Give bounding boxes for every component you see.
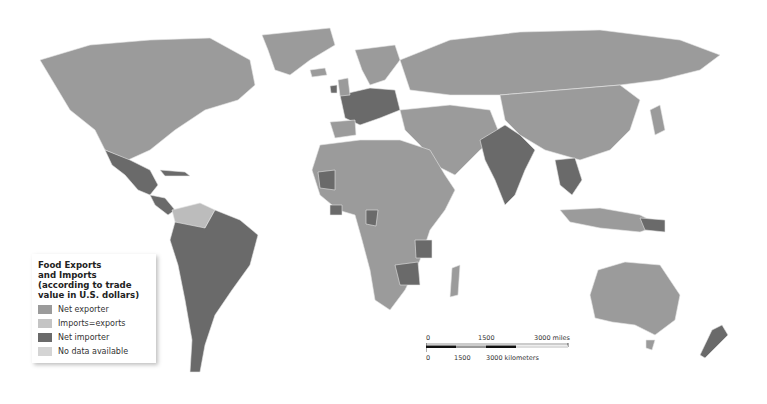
scale-bar: 0 1500 3000 miles 0 1500 3000 kilometers — [424, 334, 574, 374]
legend-label: No data available — [58, 347, 128, 356]
legend-title-line: (according to trade — [38, 280, 150, 290]
region-iceland — [310, 68, 327, 77]
legend-item-net-importer: Net importer — [38, 331, 150, 343]
legend-title-line: Food Exports — [38, 260, 150, 270]
region-japan — [650, 105, 665, 135]
region-uk — [338, 78, 350, 96]
swatch-net-importer — [38, 333, 52, 342]
swatch-net-exporter — [38, 305, 52, 314]
region-southeast-asia — [555, 158, 582, 195]
legend-label: Net exporter — [58, 305, 109, 314]
legend-item-imports-equal-exports: Imports=exports — [38, 317, 150, 329]
scale-miles-1500: 1500 — [478, 334, 495, 342]
scale-km-1500: 1500 — [454, 354, 471, 362]
region-ireland — [330, 85, 337, 93]
region-tanzania — [415, 240, 432, 258]
region-iberia — [330, 120, 356, 138]
region-australia — [590, 262, 680, 335]
legend-title-line: value in U.S. dollars) — [38, 290, 150, 300]
legend-title-line: and Imports — [38, 270, 150, 280]
region-tasmania — [646, 340, 655, 350]
legend-item-net-exporter: Net exporter — [38, 303, 150, 315]
region-west-africa — [330, 205, 342, 215]
legend-item-no-data: No data available — [38, 345, 150, 357]
region-new-zealand — [700, 325, 728, 358]
region-russia — [400, 30, 720, 95]
region-south-america — [170, 210, 258, 372]
swatch-no-data — [38, 347, 52, 356]
region-caribbean — [160, 170, 190, 176]
region-northern-europe — [355, 45, 400, 85]
legend-title: Food Exports and Imports (according to t… — [38, 260, 150, 300]
scale-km-0: 0 — [426, 354, 430, 362]
region-mauritania — [318, 170, 335, 190]
region-cameroon — [366, 210, 378, 226]
region-north-america — [40, 38, 255, 160]
region-africa — [312, 140, 455, 310]
map-legend: Food Exports and Imports (according to t… — [32, 254, 156, 363]
scale-bar-graphic — [426, 343, 571, 353]
legend-label: Imports=exports — [58, 319, 126, 328]
legend-label: Net importer — [58, 333, 109, 342]
scale-km-3000: 3000 kilometers — [486, 354, 539, 362]
region-central-america — [150, 195, 175, 215]
swatch-imports-equal-exports — [38, 319, 52, 328]
scale-miles-3000: 3000 miles — [534, 334, 570, 342]
region-madagascar — [450, 265, 460, 297]
scale-miles-0: 0 — [426, 334, 430, 342]
